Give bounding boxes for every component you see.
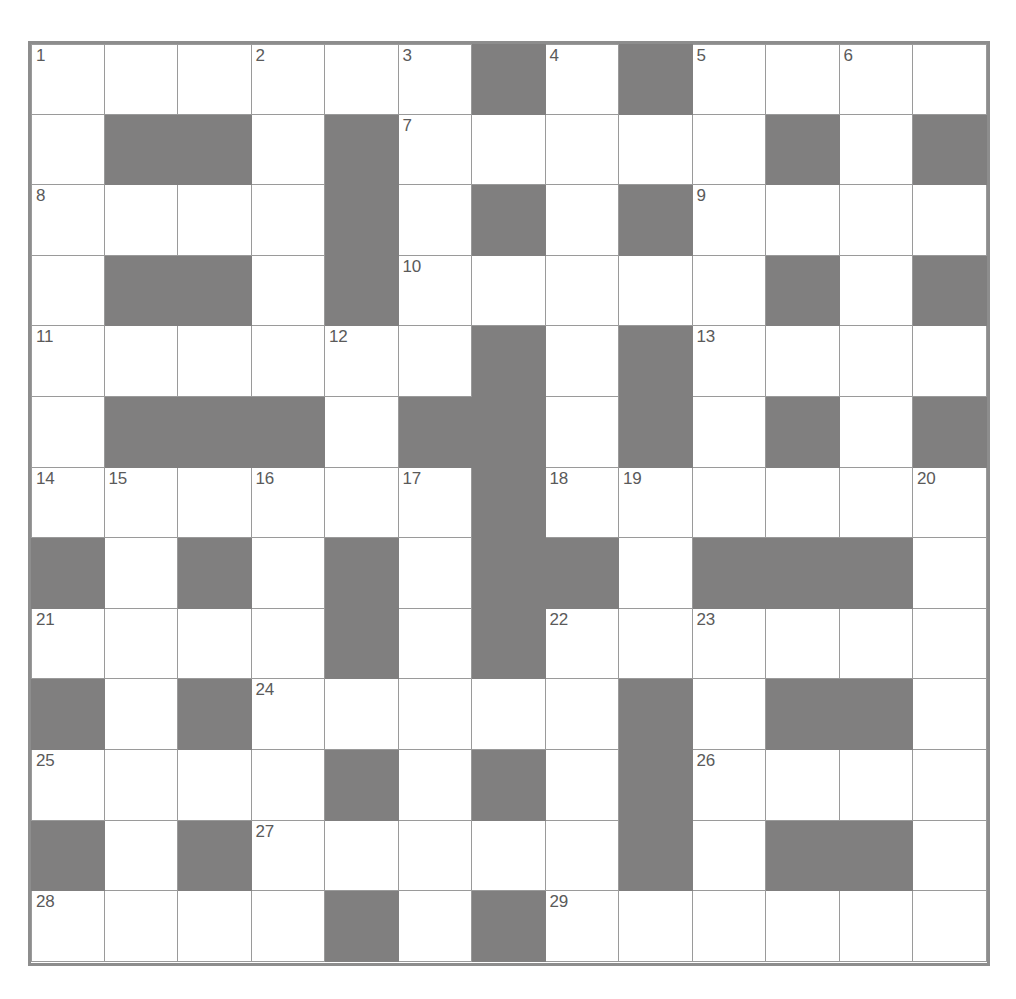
grid-open-square[interactable] — [252, 115, 326, 186]
grid-open-square[interactable] — [840, 326, 914, 397]
grid-open-square[interactable] — [252, 609, 326, 680]
grid-open-square[interactable] — [693, 468, 767, 539]
grid-open-square[interactable] — [693, 821, 767, 892]
grid-open-square[interactable] — [913, 326, 987, 397]
crossword-grid[interactable]: 1234567891011121314151617181920212223242… — [31, 44, 987, 962]
grid-open-square[interactable] — [178, 468, 252, 539]
grid-open-square[interactable]: 3 — [399, 44, 473, 115]
grid-open-square[interactable]: 20 — [913, 468, 987, 539]
grid-open-square[interactable]: 8 — [31, 185, 105, 256]
grid-open-square[interactable]: 19 — [619, 468, 693, 539]
grid-open-square[interactable] — [840, 891, 914, 962]
grid-open-square[interactable]: 22 — [546, 609, 620, 680]
grid-open-square[interactable] — [178, 44, 252, 115]
grid-open-square[interactable]: 17 — [399, 468, 473, 539]
grid-open-square[interactable] — [472, 115, 546, 186]
grid-open-square[interactable] — [913, 538, 987, 609]
grid-open-square[interactable]: 24 — [252, 679, 326, 750]
grid-open-square[interactable] — [178, 326, 252, 397]
grid-open-square[interactable] — [546, 821, 620, 892]
grid-open-square[interactable]: 23 — [693, 609, 767, 680]
grid-open-square[interactable] — [840, 256, 914, 327]
grid-open-square[interactable] — [766, 891, 840, 962]
grid-open-square[interactable] — [546, 256, 620, 327]
grid-open-square[interactable]: 6 — [840, 44, 914, 115]
grid-open-square[interactable] — [693, 891, 767, 962]
grid-open-square[interactable]: 25 — [31, 750, 105, 821]
grid-open-square[interactable] — [913, 750, 987, 821]
grid-open-square[interactable] — [766, 609, 840, 680]
grid-open-square[interactable] — [840, 397, 914, 468]
grid-open-square[interactable]: 28 — [31, 891, 105, 962]
grid-open-square[interactable] — [840, 185, 914, 256]
grid-open-square[interactable]: 7 — [399, 115, 473, 186]
grid-open-square[interactable] — [913, 679, 987, 750]
grid-open-square[interactable] — [693, 679, 767, 750]
grid-open-square[interactable]: 4 — [546, 44, 620, 115]
grid-open-square[interactable] — [399, 538, 473, 609]
grid-open-square[interactable] — [546, 397, 620, 468]
grid-open-square[interactable] — [325, 44, 399, 115]
grid-open-square[interactable] — [766, 44, 840, 115]
grid-open-square[interactable] — [546, 750, 620, 821]
grid-open-square[interactable] — [325, 679, 399, 750]
grid-open-square[interactable] — [840, 750, 914, 821]
grid-open-square[interactable] — [913, 821, 987, 892]
grid-open-square[interactable] — [766, 468, 840, 539]
grid-open-square[interactable]: 1 — [31, 44, 105, 115]
grid-open-square[interactable] — [252, 185, 326, 256]
grid-open-square[interactable] — [31, 115, 105, 186]
grid-open-square[interactable] — [693, 397, 767, 468]
grid-open-square[interactable] — [105, 609, 179, 680]
grid-open-square[interactable] — [178, 609, 252, 680]
grid-open-square[interactable]: 9 — [693, 185, 767, 256]
grid-open-square[interactable] — [766, 326, 840, 397]
grid-open-square[interactable] — [546, 679, 620, 750]
grid-open-square[interactable] — [178, 185, 252, 256]
grid-open-square[interactable]: 11 — [31, 326, 105, 397]
grid-open-square[interactable] — [840, 609, 914, 680]
grid-open-square[interactable] — [472, 256, 546, 327]
grid-open-square[interactable] — [619, 609, 693, 680]
grid-open-square[interactable] — [399, 609, 473, 680]
grid-open-square[interactable] — [913, 609, 987, 680]
grid-open-square[interactable] — [619, 538, 693, 609]
grid-open-square[interactable] — [252, 750, 326, 821]
grid-open-square[interactable] — [178, 750, 252, 821]
grid-open-square[interactable] — [105, 326, 179, 397]
grid-open-square[interactable] — [693, 115, 767, 186]
grid-open-square[interactable] — [399, 821, 473, 892]
grid-open-square[interactable] — [619, 891, 693, 962]
grid-open-square[interactable]: 15 — [105, 468, 179, 539]
grid-open-square[interactable] — [546, 185, 620, 256]
grid-open-square[interactable] — [546, 326, 620, 397]
grid-open-square[interactable] — [105, 185, 179, 256]
grid-open-square[interactable]: 29 — [546, 891, 620, 962]
grid-open-square[interactable] — [252, 256, 326, 327]
grid-open-square[interactable]: 16 — [252, 468, 326, 539]
grid-open-square[interactable] — [325, 397, 399, 468]
grid-open-square[interactable] — [178, 891, 252, 962]
grid-open-square[interactable] — [693, 256, 767, 327]
grid-open-square[interactable] — [31, 397, 105, 468]
grid-open-square[interactable] — [399, 679, 473, 750]
grid-open-square[interactable] — [325, 821, 399, 892]
grid-open-square[interactable]: 27 — [252, 821, 326, 892]
grid-open-square[interactable]: 18 — [546, 468, 620, 539]
grid-open-square[interactable] — [105, 44, 179, 115]
grid-open-square[interactable] — [766, 750, 840, 821]
grid-open-square[interactable]: 21 — [31, 609, 105, 680]
grid-open-square[interactable] — [105, 821, 179, 892]
grid-open-square[interactable] — [619, 115, 693, 186]
grid-open-square[interactable]: 13 — [693, 326, 767, 397]
grid-open-square[interactable] — [913, 185, 987, 256]
grid-open-square[interactable] — [399, 750, 473, 821]
grid-open-square[interactable] — [252, 326, 326, 397]
grid-open-square[interactable] — [105, 538, 179, 609]
grid-open-square[interactable] — [325, 468, 399, 539]
grid-open-square[interactable]: 2 — [252, 44, 326, 115]
grid-open-square[interactable]: 12 — [325, 326, 399, 397]
grid-open-square[interactable]: 10 — [399, 256, 473, 327]
grid-open-square[interactable] — [840, 115, 914, 186]
grid-open-square[interactable]: 5 — [693, 44, 767, 115]
